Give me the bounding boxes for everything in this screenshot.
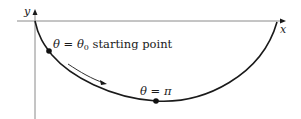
bottom-point-label: θ = π [140, 86, 171, 98]
bottom-point-marker [153, 98, 159, 104]
y-axis-arrow-icon [33, 9, 38, 15]
starting-point-label: θ = θ0 starting point [53, 39, 172, 52]
starting-point-marker [46, 48, 52, 54]
x-axis-label: x [280, 24, 286, 35]
pi-value: π [164, 84, 172, 98]
diagram-canvas [0, 0, 301, 119]
theta-symbol: θ [140, 84, 147, 98]
theta0-symbol: θ [77, 37, 84, 51]
starting-point-text: starting point [89, 37, 172, 51]
cycloid-diagram: y x θ = θ0 starting point θ = π [0, 0, 301, 119]
equals-sign: = [60, 37, 77, 51]
theta-symbol: θ [53, 37, 60, 51]
direction-arrow-icon [100, 80, 107, 85]
equals-sign: = [147, 84, 164, 98]
y-axis-label: y [24, 6, 30, 17]
